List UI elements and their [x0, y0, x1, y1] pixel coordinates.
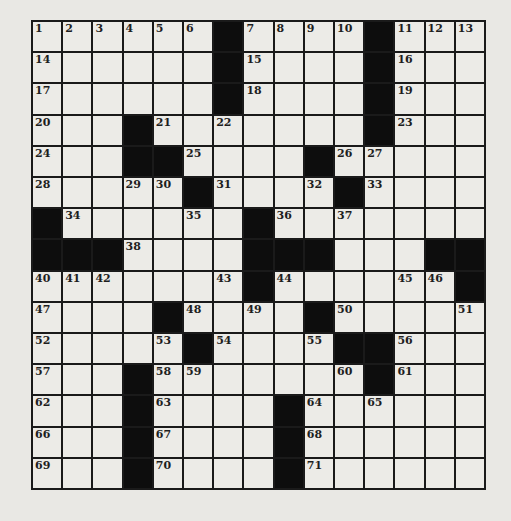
- crossword-cell[interactable]: 40: [33, 272, 61, 301]
- crossword-cell[interactable]: 30: [154, 178, 182, 207]
- crossword-cell[interactable]: 37: [335, 209, 363, 238]
- crossword-cell[interactable]: [335, 240, 363, 269]
- crossword-cell[interactable]: 49: [244, 303, 272, 332]
- crossword-cell[interactable]: 15: [244, 53, 272, 82]
- crossword-cell[interactable]: 62: [33, 396, 61, 425]
- crossword-cell[interactable]: [456, 459, 484, 488]
- crossword-cell[interactable]: 26: [335, 147, 363, 176]
- crossword-cell[interactable]: [275, 84, 303, 113]
- crossword-cell[interactable]: 36: [275, 209, 303, 238]
- crossword-cell[interactable]: 38: [124, 240, 152, 269]
- crossword-cell[interactable]: [184, 240, 212, 269]
- crossword-cell[interactable]: 27: [365, 147, 393, 176]
- crossword-cell[interactable]: [154, 240, 182, 269]
- crossword-cell[interactable]: [335, 53, 363, 82]
- crossword-cell[interactable]: 69: [33, 459, 61, 488]
- crossword-cell[interactable]: [305, 84, 333, 113]
- crossword-cell[interactable]: [63, 303, 91, 332]
- crossword-cell[interactable]: [365, 209, 393, 238]
- crossword-cell[interactable]: 64: [305, 396, 333, 425]
- crossword-cell[interactable]: [124, 334, 152, 363]
- crossword-cell[interactable]: [305, 116, 333, 145]
- crossword-cell[interactable]: [244, 365, 272, 394]
- crossword-cell[interactable]: [305, 209, 333, 238]
- crossword-cell[interactable]: 58: [154, 365, 182, 394]
- crossword-cell[interactable]: [395, 178, 423, 207]
- crossword-cell[interactable]: [275, 116, 303, 145]
- crossword-cell[interactable]: [275, 178, 303, 207]
- crossword-cell[interactable]: [275, 53, 303, 82]
- crossword-cell[interactable]: 19: [395, 84, 423, 113]
- crossword-cell[interactable]: [124, 84, 152, 113]
- crossword-cell[interactable]: 31: [214, 178, 242, 207]
- crossword-cell[interactable]: [93, 334, 121, 363]
- crossword-cell[interactable]: [335, 396, 363, 425]
- crossword-cell[interactable]: [93, 178, 121, 207]
- crossword-cell[interactable]: [184, 428, 212, 457]
- crossword-cell[interactable]: [244, 396, 272, 425]
- crossword-cell[interactable]: 16: [395, 53, 423, 82]
- crossword-cell[interactable]: [63, 116, 91, 145]
- crossword-cell[interactable]: [365, 303, 393, 332]
- crossword-cell[interactable]: 21: [154, 116, 182, 145]
- crossword-cell[interactable]: [426, 303, 454, 332]
- crossword-cell[interactable]: 25: [184, 147, 212, 176]
- crossword-cell[interactable]: [365, 272, 393, 301]
- crossword-cell[interactable]: 43: [214, 272, 242, 301]
- crossword-cell[interactable]: 66: [33, 428, 61, 457]
- crossword-cell[interactable]: [456, 53, 484, 82]
- crossword-cell[interactable]: [456, 334, 484, 363]
- crossword-cell[interactable]: 51: [456, 303, 484, 332]
- crossword-cell[interactable]: 65: [365, 396, 393, 425]
- crossword-cell[interactable]: [426, 365, 454, 394]
- crossword-cell[interactable]: 68: [305, 428, 333, 457]
- crossword-cell[interactable]: 28: [33, 178, 61, 207]
- crossword-cell[interactable]: [426, 116, 454, 145]
- crossword-cell[interactable]: 22: [214, 116, 242, 145]
- crossword-cell[interactable]: [335, 84, 363, 113]
- crossword-cell[interactable]: [214, 303, 242, 332]
- crossword-cell[interactable]: [365, 428, 393, 457]
- crossword-cell[interactable]: [426, 178, 454, 207]
- crossword-cell[interactable]: [244, 116, 272, 145]
- crossword-cell[interactable]: [63, 396, 91, 425]
- crossword-cell[interactable]: [305, 53, 333, 82]
- crossword-cell[interactable]: [456, 178, 484, 207]
- crossword-cell[interactable]: [426, 396, 454, 425]
- crossword-cell[interactable]: [63, 84, 91, 113]
- crossword-cell[interactable]: [184, 272, 212, 301]
- crossword-cell[interactable]: [275, 303, 303, 332]
- crossword-cell[interactable]: 3: [93, 22, 121, 51]
- crossword-cell[interactable]: 45: [395, 272, 423, 301]
- crossword-cell[interactable]: [63, 53, 91, 82]
- crossword-cell[interactable]: [426, 459, 454, 488]
- crossword-cell[interactable]: [154, 272, 182, 301]
- crossword-cell[interactable]: [395, 240, 423, 269]
- crossword-cell[interactable]: [214, 147, 242, 176]
- crossword-cell[interactable]: 54: [214, 334, 242, 363]
- crossword-cell[interactable]: 11: [395, 22, 423, 51]
- crossword-cell[interactable]: [426, 53, 454, 82]
- crossword-cell[interactable]: [214, 459, 242, 488]
- crossword-cell[interactable]: [244, 459, 272, 488]
- crossword-cell[interactable]: [426, 84, 454, 113]
- crossword-cell[interactable]: [63, 428, 91, 457]
- crossword-cell[interactable]: [335, 116, 363, 145]
- crossword-cell[interactable]: 61: [395, 365, 423, 394]
- crossword-cell[interactable]: 52: [33, 334, 61, 363]
- crossword-cell[interactable]: [93, 365, 121, 394]
- crossword-cell[interactable]: 12: [426, 22, 454, 51]
- crossword-cell[interactable]: [456, 396, 484, 425]
- crossword-cell[interactable]: 13: [456, 22, 484, 51]
- crossword-cell[interactable]: [456, 116, 484, 145]
- crossword-cell[interactable]: 35: [184, 209, 212, 238]
- crossword-cell[interactable]: [335, 428, 363, 457]
- crossword-cell[interactable]: [305, 272, 333, 301]
- crossword-cell[interactable]: [244, 334, 272, 363]
- crossword-cell[interactable]: [184, 396, 212, 425]
- crossword-cell[interactable]: [275, 365, 303, 394]
- crossword-cell[interactable]: 48: [184, 303, 212, 332]
- crossword-cell[interactable]: 14: [33, 53, 61, 82]
- crossword-cell[interactable]: [426, 147, 454, 176]
- crossword-cell[interactable]: [154, 84, 182, 113]
